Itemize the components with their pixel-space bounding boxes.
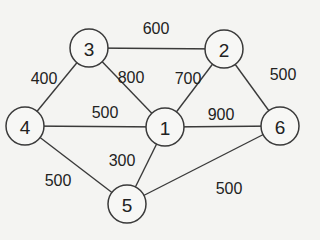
edge-weight-3-1: 800 (118, 69, 145, 86)
node-label: 4 (20, 117, 31, 138)
node-label: 6 (275, 117, 286, 138)
node-5: 5 (108, 185, 146, 223)
graph-svg: 600400800700500500900300500500 123456 (0, 0, 320, 240)
edge-weight-4-5: 500 (45, 172, 72, 189)
edge-weight-1-6: 900 (208, 106, 235, 123)
edge-weight-4-1: 500 (92, 104, 119, 121)
edge-3-2 (89, 48, 224, 49)
edge-weight-5-6: 500 (216, 180, 243, 197)
node-label: 1 (160, 118, 171, 139)
node-label: 5 (122, 195, 133, 216)
node-3: 3 (70, 29, 108, 67)
node-2: 2 (205, 30, 243, 68)
edge-weight-2-6: 500 (270, 66, 297, 83)
edge-4-1 (25, 126, 165, 127)
edge-weight-3-2: 600 (143, 20, 170, 37)
node-label: 2 (219, 40, 230, 61)
edge-weight-1-5: 300 (109, 152, 136, 169)
node-6: 6 (261, 107, 299, 145)
node-1: 1 (146, 108, 184, 146)
graph-diagram: 600400800700500500900300500500 123456 (0, 0, 320, 240)
edge-weight-2-1: 700 (175, 70, 202, 87)
node-label: 3 (84, 39, 95, 60)
edge-weight-3-4: 400 (31, 70, 58, 87)
node-4: 4 (6, 107, 44, 145)
